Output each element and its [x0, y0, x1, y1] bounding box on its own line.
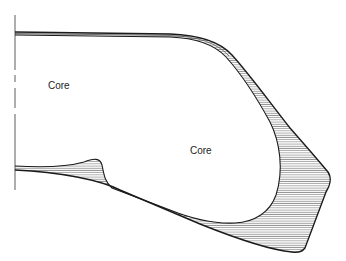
cross-section-diagram: [0, 0, 346, 261]
core-boundary: [15, 35, 280, 223]
hatched-shell: [15, 32, 330, 252]
core-label-left: Core: [48, 80, 70, 91]
core-label-right: Core: [190, 145, 212, 156]
